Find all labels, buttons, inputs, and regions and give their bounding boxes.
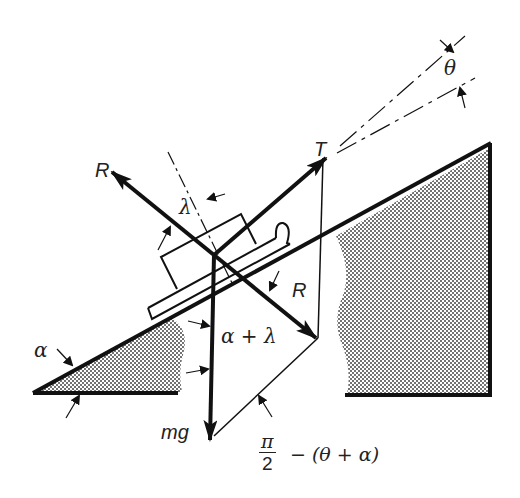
ground-left-hatch xyxy=(40,318,185,392)
label-tension: T xyxy=(314,139,326,159)
label-alpha-plus-lambda: α + λ xyxy=(221,326,277,346)
diagram-canvas: θ T R R λ α α + λ mg π 2 − (θ + α) xyxy=(0,0,520,498)
fraction-denominator: 2 xyxy=(259,453,276,475)
sledge-runner xyxy=(148,244,290,319)
label-reaction-lower: R xyxy=(292,280,306,300)
label-angle-fraction: π 2 xyxy=(259,430,276,475)
force-diagram xyxy=(0,0,520,498)
triangle-vertical xyxy=(318,158,323,338)
fraction-numerator: π xyxy=(259,430,276,453)
label-angle-remainder: − (θ + α) xyxy=(290,445,379,464)
label-weight: mg xyxy=(161,422,189,442)
weight-arrow xyxy=(210,255,214,440)
triangle-diagonal xyxy=(214,338,318,436)
label-reaction-upper: R xyxy=(95,160,109,180)
sledge-curl xyxy=(276,223,290,244)
label-lambda: λ xyxy=(179,197,192,217)
theta-line-lower xyxy=(337,78,475,153)
label-alpha: α xyxy=(34,340,48,360)
theta-line-upper xyxy=(340,36,465,146)
label-theta: θ xyxy=(444,58,456,78)
